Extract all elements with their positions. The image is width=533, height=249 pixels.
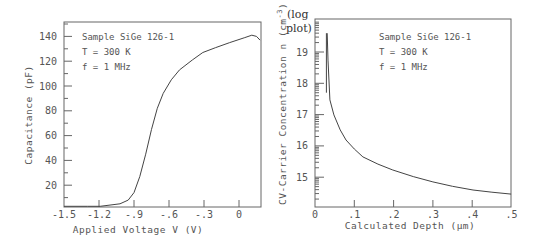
left-annotation-frequency: f = 1 MHz — [82, 62, 131, 72]
right-y-tick-label: 16 — [296, 140, 308, 151]
left-x-tick-label: -.9 — [125, 209, 143, 220]
left-y-tick-label: 20 — [45, 180, 57, 191]
log-plot-note-line2: plot) — [286, 22, 312, 35]
left-x-tick-label: 0 — [236, 209, 242, 220]
right-x-tick-label: 0 — [312, 209, 318, 220]
right-x-ticks: 0.1.2.3.4.5 — [312, 200, 518, 220]
left-y-ticks: 20406080100120140 — [39, 24, 72, 198]
left-y-axis-title: Capacitance (pF) — [23, 65, 34, 165]
right-annotation-sample: Sample SiGe 126-1 — [379, 32, 471, 42]
right-x-axis-title: Calculated Depth (μm) — [345, 220, 476, 231]
right-x-tick-label: .4 — [466, 209, 478, 220]
right-x-tick-label: .3 — [427, 209, 439, 220]
left-x-ticks: -1.5-1.2-.9-.6-.30 — [52, 200, 242, 220]
left-annotation-sample: Sample SiGe 126-1 — [82, 32, 174, 42]
left-y-tick-label: 140 — [39, 31, 57, 42]
right-x-tick-label: .2 — [388, 209, 400, 220]
concentration-curve — [327, 33, 511, 194]
left-y-tick-label: 100 — [39, 81, 57, 92]
capacitance-chart: 20406080100120140 -1.5-1.2-.9-.6-.30 Sam… — [23, 22, 261, 235]
right-x-tick-label: .5 — [505, 209, 517, 220]
left-x-tick-label: -.3 — [195, 209, 213, 220]
right-annotation-temperature: T = 300 K — [379, 47, 428, 57]
log-plot-note-line1: (log — [287, 8, 308, 21]
left-y-tick-label: 80 — [45, 105, 57, 116]
left-y-tick-label: 60 — [45, 130, 57, 141]
left-x-tick-label: -.6 — [160, 209, 178, 220]
capacitance-curve — [64, 35, 260, 206]
right-x-tick-label: .1 — [348, 209, 360, 220]
carrier-concentration-chart: 1516171819 0.1.2.3.4.5 Sample SiGe 126-1… — [276, 3, 518, 231]
left-x-axis-title: Applied Voltage V (V) — [73, 224, 204, 235]
right-y-tick-label: 18 — [296, 78, 308, 89]
right-y-tick-label: 19 — [296, 47, 308, 58]
right-y-ticks: 1516171819 — [296, 22, 324, 199]
left-y-tick-label: 120 — [39, 56, 57, 67]
chart-figure: 20406080100120140 -1.5-1.2-.9-.6-.30 Sam… — [0, 0, 533, 249]
left-annotation-temperature: T = 300 K — [82, 47, 131, 57]
left-y-tick-label: 40 — [45, 155, 57, 166]
right-annotation-frequency: f = 1 MHz — [379, 62, 428, 72]
right-y-tick-label: 15 — [296, 172, 308, 183]
left-x-tick-label: -1.2 — [87, 209, 111, 220]
right-y-tick-label: 17 — [296, 109, 308, 120]
left-x-tick-label: -1.5 — [52, 209, 76, 220]
